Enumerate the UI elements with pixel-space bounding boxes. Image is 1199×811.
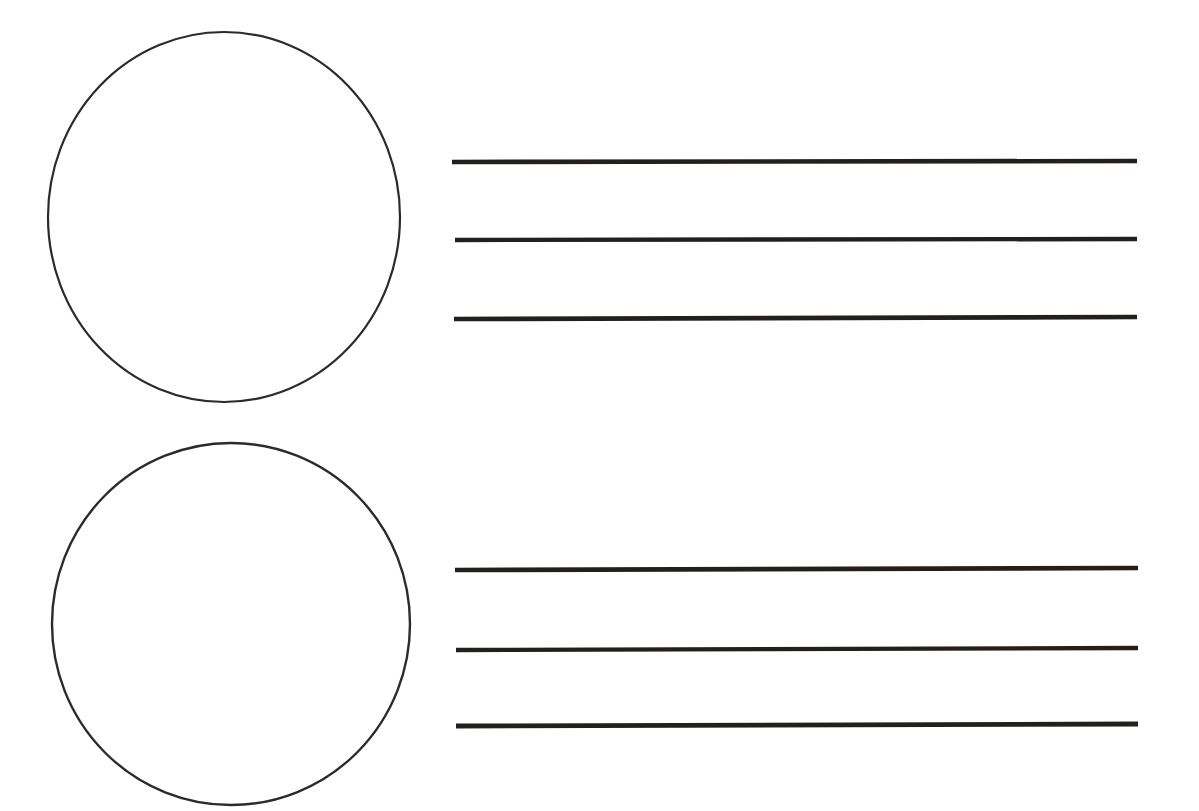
worksheet-page: Blank Worksheet Template Circle outline … — [0, 0, 1199, 811]
rule-line-1 — [452, 161, 1137, 162]
rule-line-6 — [456, 724, 1138, 726]
rule-line-5 — [456, 648, 1138, 650]
rule-line-3 — [454, 317, 1137, 319]
rule-line-4 — [455, 568, 1138, 570]
page-background — [0, 0, 1199, 811]
rule-line-2 — [455, 239, 1137, 240]
worksheet-canvas — [0, 0, 1199, 811]
